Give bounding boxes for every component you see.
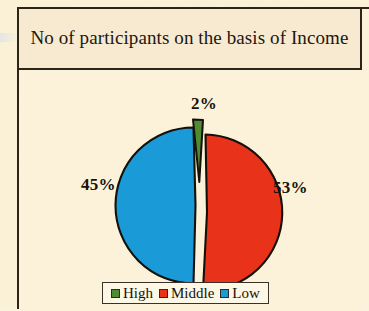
- chart-plot-area: 2% 45% 53% High Middle Low: [19, 70, 362, 311]
- pie-slice-middle[interactable]: [203, 135, 282, 291]
- scan-artifact: [0, 33, 18, 42]
- legend-swatch-high-icon: [111, 289, 120, 298]
- pie-slice-low[interactable]: [116, 128, 196, 284]
- legend-item-low[interactable]: Low: [217, 286, 263, 301]
- data-label-middle: 53%: [273, 178, 308, 198]
- chart-legend: High Middle Low: [102, 282, 269, 304]
- legend-item-high[interactable]: High: [108, 286, 156, 301]
- legend-label-high: High: [123, 286, 153, 301]
- legend-swatch-middle-icon: [159, 289, 168, 298]
- legend-label-middle: Middle: [171, 286, 214, 301]
- data-label-high: 2%: [191, 94, 217, 114]
- chart-title: No of participants on the basis of Incom…: [30, 27, 348, 49]
- chart-title-band: No of participants on the basis of Incom…: [19, 9, 362, 70]
- legend-swatch-low-icon: [220, 289, 229, 298]
- legend-item-middle[interactable]: Middle: [156, 286, 217, 301]
- data-label-low: 45%: [81, 175, 116, 195]
- legend-label-low: Low: [232, 286, 260, 301]
- chart-frame: No of participants on the basis of Incom…: [17, 7, 369, 309]
